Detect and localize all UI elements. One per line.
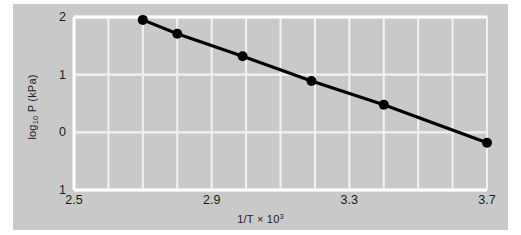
x-axis-title-main: 1/T bbox=[237, 213, 254, 225]
y-tick-label-minus-1: 1 bbox=[0, 183, 66, 197]
y-axis-title-suffix: P (kPa) bbox=[26, 74, 38, 115]
multiplication-sign-icon: × bbox=[257, 213, 264, 225]
figure-container: 2 1 0 1 2.5 2.9 3.3 3.7 log10 P (kPa) 1/… bbox=[0, 0, 521, 235]
y-axis-title: log10 P (kPa) bbox=[26, 47, 40, 167]
x-tick-label-3-3: 3.3 bbox=[341, 193, 358, 207]
x-tick-label-3-7: 3.7 bbox=[478, 193, 495, 207]
x-axis-title: 1/T × 103 bbox=[0, 212, 521, 225]
x-tick-label-2-5: 2.5 bbox=[65, 193, 82, 207]
x-axis-title-base: 10 bbox=[267, 213, 280, 225]
minor-vertical-gridlines bbox=[74, 17, 487, 190]
x-tick-label-2-9: 2.9 bbox=[203, 193, 220, 207]
x-axis-title-exponent: 3 bbox=[279, 212, 283, 221]
y-tick-label-2: 2 bbox=[0, 10, 66, 24]
y-axis-title-prefix: log bbox=[26, 124, 38, 139]
y-axis-title-subscript: 10 bbox=[31, 116, 40, 125]
